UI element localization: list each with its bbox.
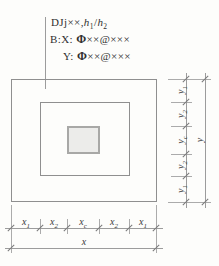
annotation-bottom-rebar-x: B:X: Φ××@××× bbox=[50, 32, 130, 47]
rebar-grade-symbol: Φ bbox=[76, 32, 86, 46]
dim-label-x1: x1 bbox=[22, 216, 30, 227]
at-sign: @ bbox=[100, 33, 111, 45]
bottom-x-label: B:X: bbox=[50, 33, 73, 45]
dim-label-y1: y1 bbox=[175, 185, 186, 193]
dimension-line-y-total bbox=[205, 73, 206, 208]
dim-label-y2: y2 bbox=[175, 161, 186, 169]
code-placeholder-marks: ×× bbox=[67, 16, 80, 28]
extension-line bbox=[171, 176, 192, 177]
dim-label-y1: y1 bbox=[175, 86, 186, 94]
dim-label-y2: y2 bbox=[175, 110, 186, 118]
annotation-bottom-rebar-y: Y: Φ××@××× bbox=[63, 49, 131, 64]
dim-label-x2: x2 bbox=[50, 216, 58, 227]
dimension-line-x-total bbox=[5, 248, 163, 249]
extension-line bbox=[171, 126, 192, 127]
annotation-foundation-code: DJj××,h1/h2 bbox=[51, 16, 107, 28]
column-section bbox=[67, 126, 100, 154]
bottom-y-label: Y: bbox=[63, 50, 74, 62]
dim-label-y-total: y bbox=[194, 138, 205, 142]
at-sign: @ bbox=[101, 50, 112, 62]
foundation-detail-diagram: DJj××,h1/h2 B:X: Φ××@××× Y: Φ××@××× x1 x… bbox=[0, 0, 219, 266]
foundation-code: DJj bbox=[51, 16, 67, 28]
extension-line bbox=[171, 154, 192, 155]
dim-label-xc: xc bbox=[79, 216, 87, 227]
dim-label-x-total: x bbox=[82, 236, 86, 247]
extension-line bbox=[171, 102, 192, 103]
dim-label-yc: yc bbox=[175, 136, 186, 144]
rebar-grade-symbol: Φ bbox=[77, 49, 87, 63]
dim-label-x1: x1 bbox=[139, 216, 147, 227]
dim-label-x2: x2 bbox=[110, 216, 118, 227]
